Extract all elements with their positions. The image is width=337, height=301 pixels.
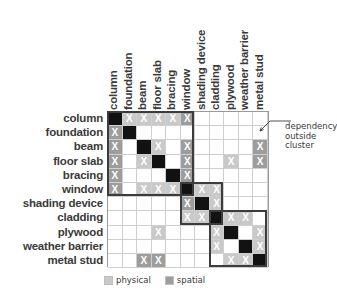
matrix-cell-beam-weather-barrier[interactable] <box>239 140 254 154</box>
matrix-cell-shading-device-plywood[interactable] <box>224 197 239 211</box>
matrix-cell-plywood-window[interactable] <box>181 226 196 240</box>
matrix-cell-window-cladding[interactable]: X <box>210 183 225 197</box>
matrix-cell-window-plywood[interactable] <box>224 183 239 197</box>
matrix-cell-metal-stud-column[interactable] <box>108 254 123 268</box>
matrix-cell-beam-shading-device[interactable] <box>195 140 210 154</box>
matrix-cell-beam-beam[interactable] <box>137 140 152 154</box>
matrix-cell-weather-barrier-beam[interactable] <box>137 240 152 254</box>
matrix-cell-beam-column[interactable]: X <box>108 140 123 154</box>
matrix-cell-floor-slab-column[interactable]: X <box>108 155 123 169</box>
matrix-cell-shading-device-cladding[interactable]: X <box>210 197 225 211</box>
matrix-cell-cladding-column[interactable] <box>108 211 123 225</box>
matrix-cell-plywood-weather-barrier[interactable] <box>239 226 254 240</box>
matrix-cell-floor-slab-bracing[interactable] <box>166 155 181 169</box>
matrix-cell-window-beam[interactable]: X <box>137 183 152 197</box>
matrix-cell-bracing-weather-barrier[interactable] <box>239 169 254 183</box>
matrix-cell-shading-device-window[interactable]: X <box>181 197 196 211</box>
matrix-cell-bracing-bracing[interactable] <box>166 169 181 183</box>
matrix-cell-window-shading-device[interactable]: X <box>195 183 210 197</box>
matrix-cell-metal-stud-weather-barrier[interactable]: X <box>239 254 254 268</box>
matrix-cell-cladding-plywood[interactable]: X <box>224 211 239 225</box>
matrix-cell-metal-stud-shading-device[interactable] <box>195 254 210 268</box>
matrix-cell-shading-device-beam[interactable] <box>137 197 152 211</box>
matrix-cell-window-metal-stud[interactable] <box>253 183 268 197</box>
matrix-cell-floor-slab-weather-barrier[interactable] <box>239 155 254 169</box>
matrix-cell-column-weather-barrier[interactable] <box>239 112 254 126</box>
matrix-cell-foundation-floor-slab[interactable] <box>152 126 167 140</box>
matrix-cell-column-column[interactable] <box>108 112 123 126</box>
matrix-cell-window-weather-barrier[interactable] <box>239 183 254 197</box>
matrix-cell-foundation-weather-barrier[interactable] <box>239 126 254 140</box>
matrix-cell-shading-device-floor-slab[interactable] <box>152 197 167 211</box>
matrix-cell-floor-slab-beam[interactable]: X <box>137 155 152 169</box>
matrix-cell-weather-barrier-metal-stud[interactable]: X <box>253 240 268 254</box>
matrix-cell-column-plywood[interactable] <box>224 112 239 126</box>
matrix-cell-metal-stud-plywood[interactable]: X <box>224 254 239 268</box>
matrix-cell-foundation-cladding[interactable] <box>210 126 225 140</box>
dsm-matrix[interactable]: XXXXXXXXXXXXXXXXXXXXXXXXXXXXXXXXXXXXXX <box>107 111 269 267</box>
matrix-cell-foundation-shading-device[interactable] <box>195 126 210 140</box>
matrix-cell-bracing-floor-slab[interactable] <box>152 169 167 183</box>
matrix-cell-column-cladding[interactable] <box>210 112 225 126</box>
matrix-cell-metal-stud-floor-slab[interactable]: X <box>152 254 167 268</box>
matrix-cell-weather-barrier-cladding[interactable]: X <box>210 240 225 254</box>
matrix-cell-floor-slab-plywood[interactable]: X <box>224 155 239 169</box>
matrix-cell-window-window[interactable] <box>181 183 196 197</box>
matrix-cell-shading-device-bracing[interactable] <box>166 197 181 211</box>
matrix-cell-foundation-window[interactable] <box>181 126 196 140</box>
matrix-cell-foundation-beam[interactable] <box>137 126 152 140</box>
matrix-cell-weather-barrier-weather-barrier[interactable] <box>239 240 254 254</box>
matrix-cell-shading-device-shading-device[interactable] <box>195 197 210 211</box>
matrix-cell-cladding-metal-stud[interactable] <box>253 211 268 225</box>
matrix-cell-beam-bracing[interactable] <box>166 140 181 154</box>
matrix-cell-cladding-foundation[interactable] <box>123 211 138 225</box>
matrix-cell-metal-stud-foundation[interactable] <box>123 254 138 268</box>
matrix-cell-cladding-shading-device[interactable]: X <box>195 211 210 225</box>
matrix-cell-beam-floor-slab[interactable]: X <box>152 140 167 154</box>
matrix-cell-window-bracing[interactable]: X <box>166 183 181 197</box>
matrix-cell-weather-barrier-window[interactable] <box>181 240 196 254</box>
matrix-cell-metal-stud-window[interactable] <box>181 254 196 268</box>
matrix-cell-floor-slab-metal-stud[interactable]: X <box>253 155 268 169</box>
matrix-cell-cladding-cladding[interactable] <box>210 211 225 225</box>
matrix-cell-column-shading-device[interactable] <box>195 112 210 126</box>
matrix-cell-beam-metal-stud[interactable]: X <box>253 140 268 154</box>
matrix-cell-metal-stud-metal-stud[interactable] <box>253 254 268 268</box>
matrix-cell-beam-plywood[interactable] <box>224 140 239 154</box>
matrix-cell-beam-cladding[interactable] <box>210 140 225 154</box>
matrix-cell-plywood-plywood[interactable] <box>224 226 239 240</box>
matrix-cell-column-bracing[interactable]: X <box>166 112 181 126</box>
matrix-cell-foundation-bracing[interactable] <box>166 126 181 140</box>
matrix-cell-cladding-floor-slab[interactable] <box>152 211 167 225</box>
matrix-cell-beam-foundation[interactable] <box>123 140 138 154</box>
matrix-cell-weather-barrier-shading-device[interactable] <box>195 240 210 254</box>
matrix-cell-weather-barrier-bracing[interactable] <box>166 240 181 254</box>
matrix-cell-floor-slab-shading-device[interactable] <box>195 155 210 169</box>
matrix-cell-foundation-plywood[interactable] <box>224 126 239 140</box>
matrix-cell-bracing-beam[interactable] <box>137 169 152 183</box>
matrix-cell-metal-stud-bracing[interactable] <box>166 254 181 268</box>
matrix-cell-cladding-window[interactable]: X <box>181 211 196 225</box>
matrix-cell-window-floor-slab[interactable]: X <box>152 183 167 197</box>
matrix-cell-bracing-shading-device[interactable] <box>195 169 210 183</box>
matrix-cell-beam-window[interactable]: X <box>181 140 196 154</box>
matrix-cell-plywood-metal-stud[interactable]: X <box>253 226 268 240</box>
matrix-cell-column-floor-slab[interactable]: X <box>152 112 167 126</box>
matrix-cell-column-beam[interactable]: X <box>137 112 152 126</box>
matrix-cell-floor-slab-cladding[interactable] <box>210 155 225 169</box>
matrix-cell-cladding-weather-barrier[interactable]: X <box>239 211 254 225</box>
matrix-cell-shading-device-column[interactable] <box>108 197 123 211</box>
matrix-cell-weather-barrier-foundation[interactable] <box>123 240 138 254</box>
matrix-cell-plywood-floor-slab[interactable]: X <box>152 226 167 240</box>
matrix-cell-bracing-metal-stud[interactable] <box>253 169 268 183</box>
matrix-cell-cladding-bracing[interactable] <box>166 211 181 225</box>
matrix-cell-floor-slab-window[interactable]: X <box>181 155 196 169</box>
matrix-cell-shading-device-weather-barrier[interactable] <box>239 197 254 211</box>
matrix-cell-window-foundation[interactable] <box>123 183 138 197</box>
matrix-cell-weather-barrier-floor-slab[interactable] <box>152 240 167 254</box>
matrix-cell-shading-device-foundation[interactable] <box>123 197 138 211</box>
matrix-cell-shading-device-metal-stud[interactable] <box>253 197 268 211</box>
matrix-cell-weather-barrier-plywood[interactable] <box>224 240 239 254</box>
matrix-cell-column-foundation[interactable]: X <box>123 112 138 126</box>
matrix-cell-bracing-cladding[interactable] <box>210 169 225 183</box>
